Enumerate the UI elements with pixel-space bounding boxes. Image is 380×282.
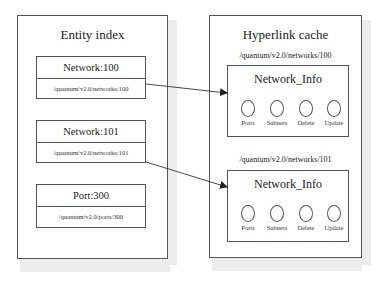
diagram-canvas: Entity index Network:100 /quantum/v2.0/n… bbox=[0, 0, 380, 282]
arrow-network-100-link bbox=[146, 84, 227, 93]
arrow-network-101-link bbox=[146, 162, 227, 187]
link-arrows bbox=[0, 0, 380, 282]
